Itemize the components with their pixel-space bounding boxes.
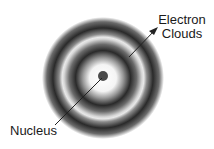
nucleus-label: Nucleus xyxy=(10,124,57,137)
electron-clouds-label: Electron Clouds xyxy=(157,13,207,40)
nucleus xyxy=(98,71,108,81)
electron-clouds-label-line1: Electron xyxy=(157,13,207,26)
electron-clouds-label-line2: Clouds xyxy=(157,27,207,40)
